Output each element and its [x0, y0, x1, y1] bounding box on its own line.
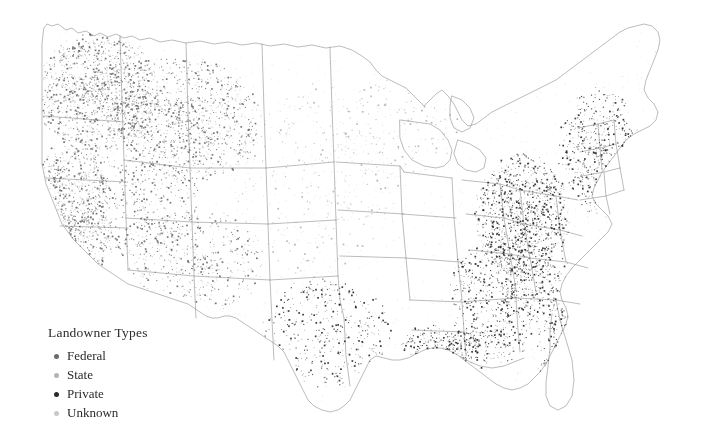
landowner-types-map: Landowner Types Federal State Private Un…	[0, 0, 705, 446]
legend-item-state[interactable]: State	[54, 366, 198, 385]
legend-label-unknown: Unknown	[67, 406, 118, 420]
legend-label-private: Private	[67, 387, 104, 401]
legend-dot-private	[54, 392, 59, 397]
legend-dot-federal	[54, 354, 59, 359]
legend-dot-state	[54, 373, 59, 378]
legend-item-private[interactable]: Private	[54, 385, 198, 404]
legend-label-state: State	[67, 368, 93, 382]
legend: Landowner Types Federal State Private Un…	[48, 326, 198, 423]
legend-title: Landowner Types	[48, 326, 198, 341]
legend-dot-unknown	[54, 411, 59, 416]
legend-item-unknown[interactable]: Unknown	[54, 404, 198, 423]
legend-label-federal: Federal	[67, 349, 106, 363]
legend-item-federal[interactable]: Federal	[54, 347, 198, 366]
